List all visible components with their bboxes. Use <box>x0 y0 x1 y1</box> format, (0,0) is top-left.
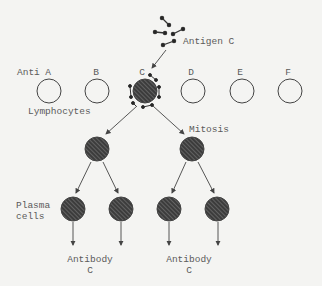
letter-a: A <box>45 67 51 78</box>
anti-prefix-label: Anti <box>17 67 40 78</box>
lymphocyte-e <box>230 79 254 103</box>
binding-arrow <box>152 50 166 68</box>
antibody-label-2-letter: C <box>186 265 192 276</box>
lymphocyte-a <box>37 79 61 103</box>
lymphocyte-c <box>133 79 157 103</box>
antibody-label-1-letter: C <box>87 265 93 276</box>
lymphocyte-d <box>181 79 205 103</box>
daughter-cell-2 <box>180 137 204 161</box>
daughter-cell-1 <box>85 137 109 161</box>
antigen-label: Antigen C <box>183 36 234 47</box>
plasma-cell-3 <box>157 197 181 221</box>
antibody-label-2: Antibody <box>166 254 212 265</box>
letter-d: D <box>188 67 194 78</box>
lymphocyte-f <box>278 79 302 103</box>
antigen-molecules <box>153 16 184 46</box>
clonal-selection-diagram <box>0 0 322 286</box>
mitosis-label: Mitosis <box>189 124 229 135</box>
mitosis-arrows <box>106 106 184 134</box>
plasma-arrows <box>76 162 214 193</box>
lymphocyte-b <box>85 79 109 103</box>
letter-f: F <box>285 67 291 78</box>
letter-c: C <box>139 67 145 78</box>
letter-e: E <box>237 67 243 78</box>
antibody-label-1: Antibody <box>67 254 113 265</box>
plasma-cell-2 <box>109 197 133 221</box>
plasma-cell-4 <box>205 197 229 221</box>
lymphocyte-row <box>37 79 302 103</box>
plasma-label-line1: Plasma <box>16 200 50 211</box>
plasma-label-line2: cells <box>16 211 45 222</box>
antibody-arrows <box>73 222 218 245</box>
letter-b: B <box>93 67 99 78</box>
lymphocytes-label: Lymphocytes <box>28 106 91 117</box>
plasma-cell-1 <box>61 197 85 221</box>
